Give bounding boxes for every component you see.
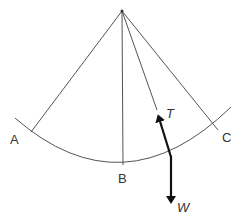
pendulum-diagram: A B C T W — [0, 0, 237, 219]
label-T: T — [166, 106, 175, 121]
label-C: C — [222, 130, 231, 145]
string-to-A — [31, 11, 122, 132]
string-to-B — [122, 11, 123, 165]
tension-arrow — [159, 118, 171, 157]
label-W: W — [177, 200, 191, 215]
label-A: A — [10, 132, 19, 147]
string-to-bob — [122, 11, 157, 110]
label-B: B — [118, 171, 127, 186]
pivot-point — [121, 10, 124, 13]
